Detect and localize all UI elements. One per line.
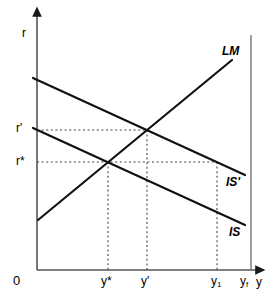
x-tick-label-y-star: y* bbox=[101, 275, 112, 287]
x-tick-label-y-prime: y' bbox=[141, 275, 149, 287]
y-tick-label-r-prime: r' bbox=[16, 122, 22, 134]
x-axis-label: y bbox=[256, 276, 262, 288]
is-lm-diagram: r y 0 r' r* y* y' y1 yf LM IS' IS bbox=[0, 0, 268, 299]
x-tick-y-full-sub: f bbox=[246, 280, 248, 289]
y-tick-r-star-sup: * bbox=[20, 154, 25, 168]
lm-curve bbox=[38, 60, 232, 220]
x-tick-y-one-sub: 1 bbox=[217, 280, 221, 289]
y-axis-label: r bbox=[22, 27, 26, 39]
is-prime-curve bbox=[33, 78, 245, 175]
y-tick-r-prime-sup: ' bbox=[20, 121, 22, 135]
is-prime-curve-label: IS' bbox=[226, 176, 240, 188]
y-tick-label-r-star: r* bbox=[16, 155, 25, 167]
x-tick-y-prime-sup: ' bbox=[147, 274, 149, 288]
is-curve bbox=[33, 128, 245, 225]
is-curve-label: IS bbox=[229, 226, 240, 238]
lm-curve-label: LM bbox=[222, 45, 239, 57]
x-tick-label-y-one: y1 bbox=[211, 275, 221, 289]
x-tick-y-star-sup: * bbox=[107, 274, 112, 288]
x-tick-label-y-full: yf bbox=[240, 275, 248, 289]
origin-label: 0 bbox=[13, 274, 20, 287]
